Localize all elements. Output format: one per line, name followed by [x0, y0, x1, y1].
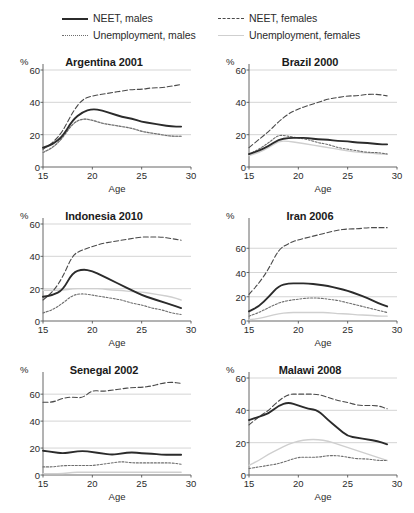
x-tick-label: 15 — [38, 170, 49, 181]
panel-iran-2006: Iran 2006%020406015202530Age — [208, 206, 412, 360]
x-tick-label: 20 — [293, 324, 304, 335]
x-tick-label: 20 — [293, 170, 304, 181]
x-tick-label: 20 — [87, 170, 98, 181]
x-axis-ticks: 15202530 — [43, 324, 191, 338]
series-unemployment-males — [249, 298, 387, 316]
x-tick-label: 15 — [244, 478, 255, 489]
y-axis-ticks: 0204060 — [12, 224, 40, 321]
legend-column-females: NEET, females Unemployment, females — [218, 10, 360, 44]
series-unemployment-females — [43, 472, 181, 473]
plot-area — [43, 70, 191, 167]
y-tick-label: 0 — [220, 162, 246, 173]
plot-area — [43, 224, 191, 321]
x-tick-label: 20 — [87, 478, 98, 489]
x-axis-title: Age — [43, 183, 191, 194]
figure-neet-unemployment-by-age: NEET, males Unemployment, males NEET, fe… — [0, 0, 414, 513]
x-tick-label: 15 — [38, 324, 49, 335]
y-axis-ticks: 0204060 — [218, 70, 246, 167]
plot-area — [249, 378, 397, 475]
legend-unemployment-males: Unemployment, males — [62, 27, 196, 44]
y-tick-label: 20 — [220, 437, 246, 448]
x-tick-label: 30 — [186, 324, 197, 335]
y-axis-ticks: 0204060 — [218, 378, 246, 475]
y-axis-ticks: 0204060 — [12, 70, 40, 167]
x-axis-title: Age — [249, 337, 397, 348]
y-axis-ticks: 0204060 — [12, 378, 40, 475]
y-tick-label: 0 — [220, 316, 246, 327]
legend-label: Unemployment, females — [249, 30, 360, 41]
y-tick-label: 0 — [14, 316, 40, 327]
panel-grid: Argentina 2001%020406015202530AgeBrazil … — [0, 52, 414, 513]
legend-label: NEET, males — [93, 13, 153, 24]
y-tick-label: 40 — [220, 97, 246, 108]
legend-neet-females: NEET, females — [218, 10, 360, 27]
series-neet-females — [249, 394, 387, 425]
x-axis-ticks: 15202530 — [249, 170, 397, 184]
series-unemployment-males — [43, 462, 181, 467]
x-tick-label: 25 — [342, 478, 353, 489]
panel-argentina-2001: Argentina 2001%020406015202530Age — [2, 52, 206, 206]
x-tick-label: 20 — [87, 324, 98, 335]
y-tick-label: 40 — [14, 97, 40, 108]
x-axis-title: Age — [43, 337, 191, 348]
y-tick-label: 60 — [14, 219, 40, 230]
legend-label: Unemployment, males — [93, 30, 196, 41]
series-neet-males — [43, 451, 181, 455]
y-tick-label: 0 — [220, 470, 246, 481]
series-unemployment-females — [249, 313, 387, 320]
panel-title: Iran 2006 — [208, 210, 412, 222]
legend: NEET, males Unemployment, males NEET, fe… — [0, 10, 414, 50]
y-tick-label: 40 — [14, 416, 40, 427]
x-tick-label: 30 — [186, 170, 197, 181]
y-tick-label: 40 — [220, 267, 246, 278]
panel-brazil-2000: Brazil 2000%020406015202530Age — [208, 52, 412, 206]
x-tick-label: 20 — [293, 478, 304, 489]
x-tick-label: 30 — [392, 478, 403, 489]
x-axis-ticks: 15202530 — [249, 324, 397, 338]
panel-title: Senegal 2002 — [2, 364, 206, 376]
x-tick-label: 30 — [392, 324, 403, 335]
x-tick-label: 25 — [136, 324, 147, 335]
y-tick-label: 0 — [14, 162, 40, 173]
plot-area — [249, 224, 397, 321]
y-tick-label: 60 — [220, 243, 246, 254]
y-tick-label: 60 — [14, 389, 40, 400]
x-axis-ticks: 15202530 — [43, 170, 191, 184]
y-tick-label: 20 — [14, 129, 40, 140]
x-axis-ticks: 15202530 — [43, 478, 191, 492]
plot-area — [43, 378, 191, 475]
x-axis-title: Age — [249, 491, 397, 502]
legend-neet-males: NEET, males — [62, 10, 196, 27]
y-tick-label: 60 — [14, 65, 40, 76]
x-tick-label: 25 — [136, 478, 147, 489]
y-tick-label: 20 — [14, 443, 40, 454]
y-tick-label: 40 — [14, 251, 40, 262]
y-axis-unit-label: % — [226, 210, 234, 221]
x-tick-label: 15 — [38, 478, 49, 489]
y-tick-label: 20 — [220, 291, 246, 302]
series-unemployment-females — [249, 439, 387, 465]
x-tick-label: 15 — [244, 170, 255, 181]
y-axis-unit-label: % — [20, 364, 28, 375]
panel-senegal-2002: Senegal 2002%020406015202530Age — [2, 360, 206, 513]
x-tick-label: 25 — [136, 170, 147, 181]
panel-indonesia-2010: Indonesia 2010%020406015202530Age — [2, 206, 206, 360]
series-neet-females — [43, 382, 181, 402]
y-axis-ticks: 0204060 — [218, 224, 246, 321]
x-tick-label: 15 — [244, 324, 255, 335]
x-tick-label: 25 — [342, 324, 353, 335]
panel-malawi-2008: Malawi 2008%020406015202530Age — [208, 360, 412, 513]
series-unemployment-males — [43, 294, 181, 315]
x-tick-label: 30 — [392, 170, 403, 181]
x-axis-title: Age — [43, 491, 191, 502]
y-tick-label: 60 — [220, 373, 246, 384]
x-axis-title: Age — [249, 183, 397, 194]
y-tick-label: 40 — [220, 405, 246, 416]
legend-column-males: NEET, males Unemployment, males — [62, 10, 196, 44]
series-unemployment-males — [249, 456, 387, 469]
legend-unemployment-females: Unemployment, females — [218, 27, 360, 44]
y-tick-label: 20 — [14, 283, 40, 294]
plot-area — [249, 70, 397, 167]
x-tick-label: 25 — [342, 170, 353, 181]
x-tick-label: 30 — [186, 478, 197, 489]
